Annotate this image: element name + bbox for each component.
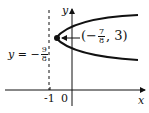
vertex-point (54, 35, 60, 41)
vertex-fraction: 78 (98, 28, 105, 45)
vertex-den: 8 (98, 37, 105, 45)
vertex-label: (−78, 3) (81, 28, 128, 45)
x-axis-label: x (138, 95, 144, 106)
directrix-label: y = −98 (8, 46, 49, 63)
x-tick-label-zero: 0 (61, 93, 68, 104)
directrix-den: 8 (41, 55, 48, 63)
vertex-label-close: , 3) (106, 28, 128, 43)
vertex-label-open: (− (81, 28, 97, 43)
y-axis-label: y (62, 5, 68, 16)
x-tick-label-minus-one: -1 (44, 93, 55, 104)
directrix-fraction: 98 (41, 46, 48, 63)
directrix-label-prefix: y = − (8, 48, 40, 61)
